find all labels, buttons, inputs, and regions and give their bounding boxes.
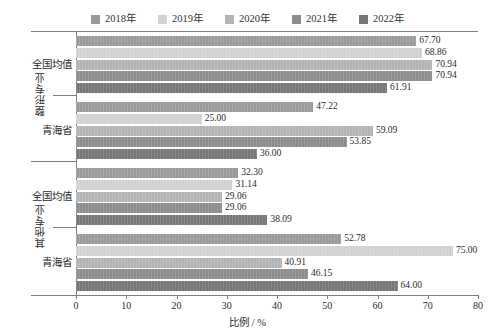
x-axis-tick-label: 50 bbox=[312, 300, 342, 312]
x-axis-tick-label: 80 bbox=[463, 300, 493, 312]
bar-row: 25.00 bbox=[0, 114, 495, 124]
x-axis-title: 比例 / % bbox=[0, 314, 495, 329]
x-axis-tick-label: 30 bbox=[212, 300, 242, 312]
legend-label: 2019年 bbox=[172, 14, 203, 24]
category-separator bbox=[31, 161, 76, 162]
x-axis-tick-label: 10 bbox=[111, 300, 141, 312]
bar-value-label: 40.91 bbox=[285, 257, 306, 268]
legend-label: 2022年 bbox=[373, 14, 404, 24]
bar-row: 29.06 bbox=[0, 203, 495, 213]
bar-2018年-全国均值[interactable] bbox=[76, 36, 416, 46]
bar-row: 67.70 bbox=[0, 36, 495, 46]
bar-row: 32.30 bbox=[0, 168, 495, 178]
legend-item-2020年[interactable]: 2020年 bbox=[225, 14, 270, 24]
bar-2019年-全国均值[interactable] bbox=[76, 48, 422, 58]
x-axis-tick bbox=[378, 295, 379, 299]
bar-row: 70.94 bbox=[0, 60, 495, 70]
bar-value-label: 64.00 bbox=[401, 280, 422, 291]
bar-row: 64.00 bbox=[0, 281, 495, 291]
x-axis-tick-label: 60 bbox=[363, 300, 393, 312]
bar-row: 31.14 bbox=[0, 180, 495, 190]
x-axis-tick-label: 70 bbox=[413, 300, 443, 312]
category-separator bbox=[31, 295, 76, 296]
x-axis-tick bbox=[76, 295, 77, 299]
x-axis-tick bbox=[126, 295, 127, 299]
legend-label: 2021年 bbox=[306, 14, 337, 24]
bar-value-label: 61.91 bbox=[390, 82, 411, 93]
bar-value-label: 75.00 bbox=[456, 245, 477, 256]
category-separator bbox=[53, 227, 76, 228]
bar-value-label: 38.09 bbox=[270, 214, 291, 225]
bar-2022年-全国均值[interactable] bbox=[76, 215, 267, 225]
bar-row: 47.22 bbox=[0, 102, 495, 112]
bar-2019年-青海省[interactable] bbox=[76, 114, 202, 124]
bar-2021年-青海省[interactable] bbox=[76, 269, 308, 279]
bar-value-label: 70.94 bbox=[435, 70, 456, 81]
bar-value-label: 32.30 bbox=[241, 167, 262, 178]
bar-2020年-青海省[interactable] bbox=[76, 126, 373, 136]
chart-legend: 2018年2019年2020年2021年2022年 bbox=[0, 11, 495, 27]
bar-row: 29.06 bbox=[0, 192, 495, 202]
bar-row: 59.09 bbox=[0, 126, 495, 136]
bar-row: 40.91 bbox=[0, 258, 495, 268]
bar-row: 68.86 bbox=[0, 48, 495, 58]
axis-top-line bbox=[76, 31, 478, 32]
bar-value-label: 68.86 bbox=[425, 47, 446, 58]
bar-value-label: 53.85 bbox=[350, 136, 371, 147]
bar-value-label: 29.06 bbox=[225, 191, 246, 202]
x-axis-tick bbox=[327, 295, 328, 299]
bar-chart: 2018年2019年2020年2021年2022年 全国均值青海省全国均值青海省… bbox=[0, 0, 495, 332]
bar-value-label: 67.70 bbox=[419, 35, 440, 46]
bar-2020年-全国均值[interactable] bbox=[76, 60, 432, 70]
x-axis-tick-label: 20 bbox=[162, 300, 192, 312]
legend-item-2019年[interactable]: 2019年 bbox=[158, 14, 203, 24]
x-axis-tick bbox=[277, 295, 278, 299]
bar-2022年-青海省[interactable] bbox=[76, 149, 257, 159]
bar-2018年-全国均值[interactable] bbox=[76, 168, 238, 178]
x-axis-tick-label: 0 bbox=[61, 300, 91, 312]
bar-value-label: 46.15 bbox=[311, 268, 332, 279]
bar-2022年-全国均值[interactable] bbox=[76, 83, 387, 93]
x-axis-tick-label: 40 bbox=[262, 300, 292, 312]
bar-value-label: 47.22 bbox=[316, 101, 337, 112]
category-separator bbox=[53, 95, 76, 96]
bar-row: 36.00 bbox=[0, 149, 495, 159]
legend-swatch-icon bbox=[359, 15, 368, 24]
bar-2021年-全国均值[interactable] bbox=[76, 71, 432, 81]
legend-label: 2018年 bbox=[105, 14, 136, 24]
x-axis-tick bbox=[177, 295, 178, 299]
x-axis-tick bbox=[478, 295, 479, 299]
bar-value-label: 29.06 bbox=[225, 202, 246, 213]
bar-2020年-全国均值[interactable] bbox=[76, 192, 222, 202]
bar-value-label: 52.78 bbox=[344, 233, 365, 244]
bar-2021年-全国均值[interactable] bbox=[76, 203, 222, 213]
bar-value-label: 36.00 bbox=[260, 148, 281, 159]
bar-value-label: 25.00 bbox=[205, 113, 226, 124]
legend-swatch-icon bbox=[91, 15, 100, 24]
bar-2021年-青海省[interactable] bbox=[76, 137, 347, 147]
legend-item-2018年[interactable]: 2018年 bbox=[91, 14, 136, 24]
bar-row: 70.94 bbox=[0, 71, 495, 81]
bar-row: 61.91 bbox=[0, 83, 495, 93]
bar-2022年-青海省[interactable] bbox=[76, 281, 398, 291]
bar-value-label: 70.94 bbox=[435, 59, 456, 70]
bar-row: 52.78 bbox=[0, 234, 495, 244]
legend-label: 2020年 bbox=[239, 14, 270, 24]
category-separator bbox=[31, 31, 76, 32]
bar-row: 46.15 bbox=[0, 269, 495, 279]
x-axis-tick bbox=[227, 295, 228, 299]
legend-item-2021年[interactable]: 2021年 bbox=[292, 14, 337, 24]
legend-swatch-icon bbox=[292, 15, 301, 24]
bar-2019年-全国均值[interactable] bbox=[76, 180, 232, 190]
bar-2020年-青海省[interactable] bbox=[76, 258, 282, 268]
bar-2018年-青海省[interactable] bbox=[76, 102, 313, 112]
legend-item-2022年[interactable]: 2022年 bbox=[359, 14, 404, 24]
bar-2019年-青海省[interactable] bbox=[76, 246, 453, 256]
bar-2018年-青海省[interactable] bbox=[76, 234, 341, 244]
bar-row: 53.85 bbox=[0, 137, 495, 147]
legend-swatch-icon bbox=[225, 15, 234, 24]
bar-value-label: 31.14 bbox=[235, 179, 256, 190]
bar-row: 38.09 bbox=[0, 215, 495, 225]
x-axis-tick bbox=[428, 295, 429, 299]
bar-row: 75.00 bbox=[0, 246, 495, 256]
